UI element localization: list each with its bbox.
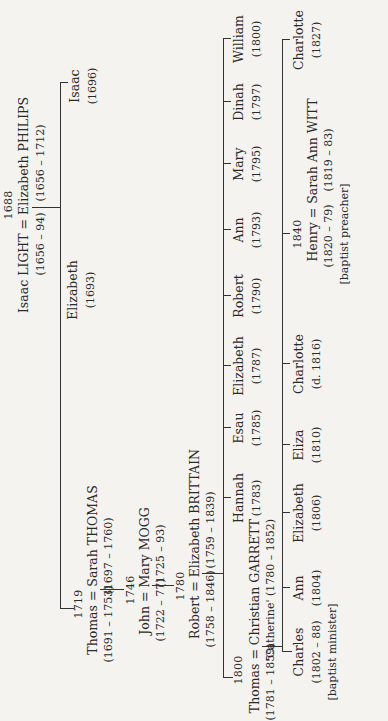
gen4-drop-dinah bbox=[223, 101, 231, 102]
gen4-drop-robert bbox=[223, 295, 231, 296]
gen4-child-robert: Robert bbox=[232, 274, 246, 317]
gen5-child-charles: Charles bbox=[292, 628, 306, 677]
gen5-drop-elizabeth bbox=[282, 512, 290, 513]
gen5-wife-alias: 'Catherine' (1780 – 1852) bbox=[264, 519, 278, 661]
gen4-child-hannah: Hannah bbox=[232, 473, 246, 523]
gen3-couple: John = Mary MOGG bbox=[138, 507, 152, 634]
gen4-drop-hannah bbox=[223, 497, 231, 498]
gen5-descent-line bbox=[262, 646, 282, 647]
gen4-child-elizabeth-dates: (1787) bbox=[250, 348, 264, 385]
gen4-child-hannah-dates: (1783) bbox=[250, 480, 264, 517]
gen5-child-elizabeth-dates: (1806) bbox=[310, 495, 324, 532]
gen4-couple: Robert = Elizabeth BRITTAIN bbox=[188, 449, 202, 639]
gen1-descent-line bbox=[32, 207, 60, 208]
gen5-child-charlotte-2-dates: (1827) bbox=[310, 22, 324, 59]
gen5-child-charles-note: [baptist minister] bbox=[326, 603, 340, 700]
gen5-child-ann-dates: (1804) bbox=[310, 570, 324, 607]
gen4-wife-dates: (1759 – 1839) bbox=[204, 491, 218, 568]
gen4-child-ann: Ann bbox=[232, 217, 246, 242]
gen5-child-eliza-dates: (1810) bbox=[310, 427, 324, 464]
gen4-sibling-bus bbox=[223, 38, 224, 678]
gen4-child-elizabeth: Elizabeth bbox=[232, 336, 246, 396]
gen5-marriage-year: 1800 bbox=[232, 655, 246, 684]
gen4-child-william-dates: (1800) bbox=[250, 21, 264, 58]
gen4-child-mary-dates: (1795) bbox=[250, 146, 264, 183]
gen4-drop-esau bbox=[223, 427, 231, 428]
gen3-marriage-year: 1746 bbox=[124, 575, 138, 604]
gen5-drop-ann bbox=[282, 587, 290, 588]
gen2-husband-dates: (1691 – 1753) bbox=[102, 585, 116, 662]
gen1-wife-dates: (1656 – 1712) bbox=[34, 124, 48, 201]
gen5-drop-charlotte bbox=[282, 363, 290, 364]
gen5-child-elizabeth: Elizabeth bbox=[292, 483, 306, 543]
gen4-child-robert-dates: (1790) bbox=[250, 278, 264, 315]
gen5-drop-eliza bbox=[282, 444, 290, 445]
gen1-child-isaac: Isaac bbox=[68, 69, 82, 102]
gen6-marriage-year: 1840 bbox=[291, 219, 305, 248]
gen6-note: [baptist preacher] bbox=[338, 183, 352, 284]
gen4-child-esau-dates: (1785) bbox=[250, 410, 264, 447]
gen2-couple: Thomas = Sarah THOMAS bbox=[86, 485, 100, 654]
gen5-drop-charlotte-2 bbox=[282, 39, 290, 40]
gen5-sibling-bus bbox=[282, 39, 283, 652]
gen5-child-charlotte-2: Charlotte bbox=[292, 10, 306, 70]
gen5-child-charlotte: Charlotte bbox=[292, 334, 306, 394]
gen1-child-isaac-dates: (1696) bbox=[86, 68, 100, 105]
gen4-child-esau: Esau bbox=[232, 412, 246, 443]
gen4-marriage-year: 1780 bbox=[174, 571, 188, 600]
gen5-couple: Thomas = Christian GARRETT bbox=[248, 519, 262, 713]
gen1-child-elizabeth-dates: (1693) bbox=[84, 272, 98, 309]
gen5-child-ann: Ann bbox=[292, 575, 306, 600]
gen2-descent-line bbox=[100, 589, 124, 590]
gen5-child-charlotte-dates: (d. 1816) bbox=[310, 339, 324, 390]
gen4-child-william: William bbox=[232, 15, 246, 63]
gen1-couple: Isaac LIGHT = Elizabeth PHILIPS bbox=[17, 97, 31, 313]
gen5-child-charles-dates: (1802 – 88) bbox=[310, 620, 324, 683]
gen4-child-mary: Mary bbox=[232, 147, 246, 180]
gen2-marriage-year: 1719 bbox=[72, 589, 86, 618]
gen4-child-dinah: Dinah bbox=[232, 83, 246, 121]
gen6-couple: Henry = Sarah Ann WITT bbox=[306, 98, 320, 261]
gen3-wife-dates: (1725 – 93) bbox=[154, 524, 168, 587]
gen4-child-ann-dates: (1793) bbox=[250, 212, 264, 249]
gen2-wife-dates: (1697 – 1760) bbox=[102, 517, 116, 594]
gen4-drop-mary bbox=[223, 163, 231, 164]
gen1-marriage-year: 1688 bbox=[2, 190, 16, 219]
gen6-husband-dates: (1820 – 79) bbox=[322, 204, 336, 267]
gen1-child-elizabeth: Elizabeth bbox=[66, 260, 80, 320]
gen1-sibling-bus bbox=[60, 82, 61, 609]
gen5-child-eliza: Eliza bbox=[292, 429, 306, 460]
gen4-child-dinah-dates: (1797) bbox=[250, 84, 264, 121]
gen3-descent-line bbox=[152, 585, 174, 586]
gen4-drop-elizabeth bbox=[223, 365, 231, 366]
gen4-husband-dates: (1758 – 1846) bbox=[204, 570, 218, 647]
gen4-drop-william bbox=[223, 38, 231, 39]
gen3-husband-dates: (1722 – 77) bbox=[154, 578, 168, 641]
gen1-husband-dates: (1656 – 94) bbox=[34, 212, 48, 275]
gen4-descent-line bbox=[202, 573, 223, 574]
gen4-drop-ann bbox=[223, 229, 231, 230]
gen5-drop-henry bbox=[282, 233, 290, 234]
gen6-wife-dates: (1819 – 83) bbox=[322, 128, 336, 191]
